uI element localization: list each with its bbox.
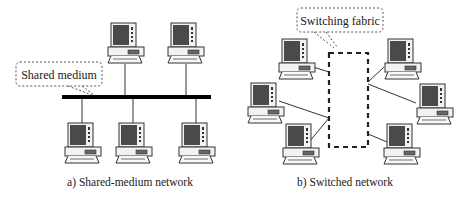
shared-medium-network: Shared medium a) Shared-medium network	[16, 23, 215, 189]
switching-fabric-callout: Switching fabric	[297, 8, 383, 48]
computer-icon	[384, 124, 420, 164]
computer-icon	[179, 123, 215, 163]
network-diagrams: Shared medium a) Shared-medium network S…	[0, 0, 464, 198]
switching-fabric-label: Switching fabric	[300, 14, 380, 28]
link-left	[279, 101, 329, 118]
link-top-right	[368, 67, 384, 82]
computer-icon	[116, 123, 152, 163]
link-bottom-left	[309, 118, 329, 142]
link-right	[368, 84, 416, 103]
computer-icon	[168, 23, 204, 63]
computer-icon	[385, 39, 421, 79]
shared-bus	[62, 95, 211, 99]
shared-medium-label: Shared medium	[21, 68, 97, 82]
caption-switched: b) Switched network	[297, 176, 393, 189]
computer-icon	[279, 39, 315, 79]
computer-icon	[108, 23, 144, 63]
computer-icon	[417, 84, 453, 124]
switched-network: Switching fabric b) Switched network	[248, 8, 453, 189]
switching-fabric	[329, 53, 368, 147]
computer-icon	[248, 83, 284, 123]
caption-shared-medium: a) Shared-medium network	[67, 176, 193, 189]
computer-icon	[283, 124, 319, 164]
link-bottom-right	[368, 134, 387, 142]
shared-medium-callout: Shared medium	[16, 62, 102, 95]
computer-icon	[65, 123, 101, 163]
